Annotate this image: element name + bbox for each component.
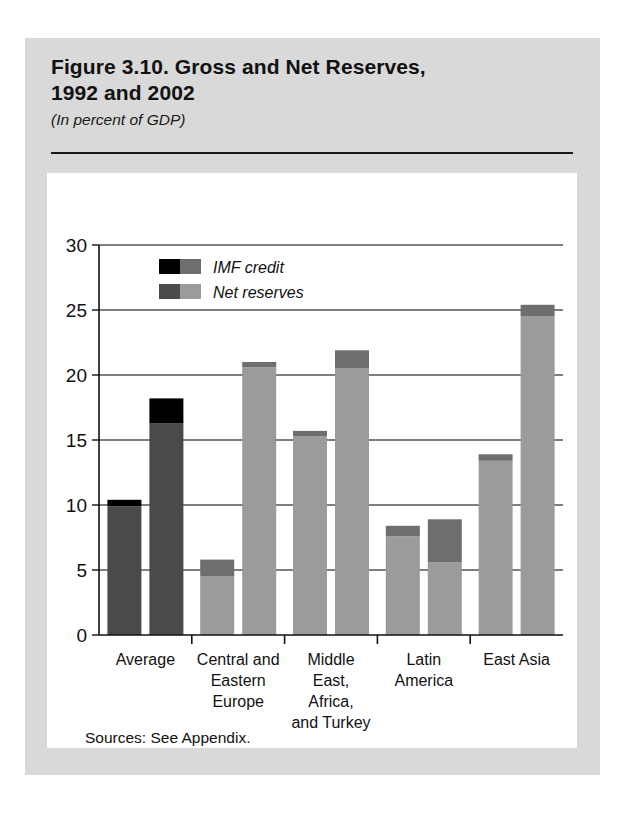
x-axis-category-label: Middle [307,651,354,668]
x-axis-category-label: East, [313,672,349,689]
bar-imf-credit [149,398,183,423]
bar-imf-credit [335,350,369,368]
plot-panel: 051015202530 AverageCentral andEasternEu… [47,173,577,748]
legend-swatch-1992 [159,284,180,299]
y-axis-tick-label: 10 [66,495,87,516]
legend-swatch-1992 [159,259,180,274]
y-axis-tick-label: 25 [66,300,87,321]
figure-card: Figure 3.10. Gross and Net Reserves, 199… [25,38,600,775]
x-axis-category-labels: AverageCentral andEasternEuropeMiddleEas… [116,651,550,731]
x-axis-category-label: Africa, [308,693,353,710]
chart-svg: 051015202530 AverageCentral andEasternEu… [47,173,577,748]
x-axis-category-label: and Turkey [291,714,370,731]
bar-imf-credit [107,500,141,507]
x-axis-category-label: America [394,672,453,689]
legend-label: Net reserves [213,284,304,301]
bar-net-reserves [149,423,183,635]
figure-title-line2: 1992 and 2002 [51,81,195,104]
bar-imf-credit [293,431,327,436]
bar-net-reserves [386,536,420,635]
legend-swatch-2002 [180,259,201,274]
bar-imf-credit [242,362,276,367]
figure-title: Figure 3.10. Gross and Net Reserves, 199… [51,54,571,105]
bar-net-reserves [107,506,141,635]
y-axis-tick-label: 0 [76,625,87,646]
legend-label: IMF credit [213,259,284,276]
x-axis-category-label: Central and [197,651,280,668]
bar-net-reserves [293,436,327,635]
y-axis-tick-label: 20 [66,365,87,386]
x-axis-category-label: East Asia [483,651,550,668]
sources-note: Sources: See Appendix. [85,729,250,747]
bar-net-reserves [242,367,276,635]
x-axis-category-label: Average [116,651,175,668]
bar-net-reserves [335,369,369,636]
legend-swatch-2002 [180,284,201,299]
bar-imf-credit [200,560,234,577]
bar-imf-credit [521,305,555,317]
figure-title-block: Figure 3.10. Gross and Net Reserves, 199… [51,54,571,129]
chart-legend: IMF creditNet reserves [159,259,304,301]
bar-imf-credit [479,454,513,461]
x-axis-category-label: Europe [212,693,264,710]
bar-net-reserves [200,577,234,636]
figure-subtitle: (In percent of GDP) [51,111,571,129]
y-axis-tick-label: 5 [76,560,87,581]
bar-net-reserves [521,317,555,636]
figure-title-line1: Figure 3.10. Gross and Net Reserves, [51,55,426,78]
bar-chart: 051015202530 AverageCentral andEasternEu… [47,173,577,748]
bar-imf-credit [386,526,420,536]
bar-imf-credit [428,519,462,562]
bar-net-reserves [479,461,513,635]
y-axis-tick-labels: 051015202530 [66,235,99,646]
x-axis-category-label: Eastern [211,672,266,689]
x-axis-category-label: Latin [406,651,441,668]
bars-layer [107,305,554,635]
bar-net-reserves [428,562,462,635]
title-divider [51,152,573,154]
y-axis-tick-label: 30 [66,235,87,256]
y-axis-tick-label: 15 [66,430,87,451]
